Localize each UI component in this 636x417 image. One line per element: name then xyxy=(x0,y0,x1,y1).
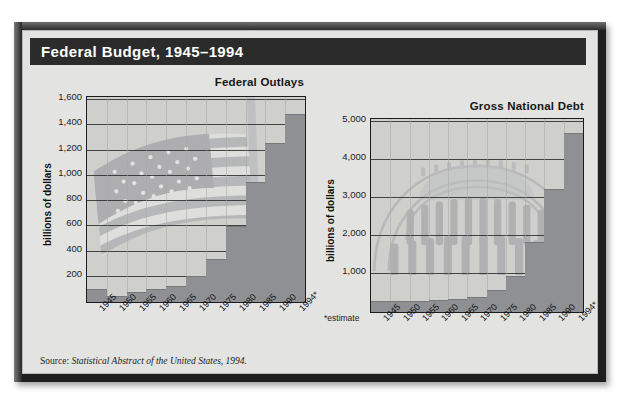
bar-slot xyxy=(487,119,506,312)
y-tick-label: 400 xyxy=(40,242,82,253)
figure-title-bar: Federal Budget, 1945–1994 xyxy=(30,38,586,65)
bar-slot xyxy=(371,119,390,312)
plot-area-left xyxy=(86,96,306,303)
y-tick-label: 1,000 xyxy=(40,166,82,177)
bar-slot xyxy=(390,119,409,312)
bar-slot xyxy=(87,97,107,302)
bar-slot xyxy=(544,119,563,312)
bar-series-right xyxy=(371,119,583,312)
figure-frame: Federal Budget, 1945–1994 Federal Outlay… xyxy=(14,22,606,382)
bar-slot xyxy=(467,119,486,312)
bar xyxy=(285,114,305,302)
frame-bevel-top xyxy=(14,22,606,30)
bar-slot xyxy=(506,119,525,312)
y-tick-label: 5,000 xyxy=(324,113,366,124)
y-axis-tick-labels-left: 2004006008001,0001,2001,4001,600 xyxy=(40,76,82,351)
y-tick-label: 600 xyxy=(40,217,82,228)
y-tick-label: 2,000 xyxy=(324,227,366,238)
bar-slot xyxy=(206,97,226,302)
bar-slot xyxy=(246,97,266,302)
bar-slot xyxy=(265,97,285,302)
y-tick-label: 3,000 xyxy=(324,189,366,200)
bar xyxy=(525,242,544,312)
y-tick-label: 1,400 xyxy=(40,116,82,127)
bar xyxy=(226,226,246,302)
bar-slot xyxy=(107,97,127,302)
bar-slot xyxy=(146,97,166,302)
page-title: Federal Budget, 1945–1994 xyxy=(30,43,244,60)
bar-slot xyxy=(166,97,186,302)
source-prefix: Source: xyxy=(40,356,71,366)
chart-title-right: Gross National Debt xyxy=(470,100,584,112)
bar xyxy=(265,143,285,302)
chart-gross-national-debt: Gross National Debt billions of dollars … xyxy=(324,100,586,351)
bar-slot xyxy=(525,119,544,312)
bar xyxy=(564,133,583,312)
source-citation: Statistical Abstract of the United State… xyxy=(71,356,247,366)
y-tick-label: 1,600 xyxy=(40,91,82,102)
source-line: Source: Statistical Abstract of the Unit… xyxy=(40,356,247,366)
bar-slot xyxy=(285,97,305,302)
bar xyxy=(246,182,266,302)
y-tick-label: 800 xyxy=(40,192,82,203)
y-tick-label: 1,200 xyxy=(40,141,82,152)
estimate-footnote: *estimate xyxy=(324,313,359,323)
y-tick-label: 200 xyxy=(40,267,82,278)
bar-series-left xyxy=(87,97,305,302)
bar-slot xyxy=(186,97,206,302)
chart-federal-outlays: Federal Outlays billions of dollars 2004… xyxy=(40,76,308,351)
bar-slot xyxy=(564,119,583,312)
plot-area-right xyxy=(370,118,584,313)
bar-slot xyxy=(410,119,429,312)
frame-bevel-left xyxy=(14,22,22,382)
bar-slot xyxy=(226,97,246,302)
bar-slot xyxy=(448,119,467,312)
y-tick-label: 4,000 xyxy=(324,151,366,162)
bar-slot xyxy=(127,97,147,302)
y-tick-label: 1,000 xyxy=(324,265,366,276)
bar-slot xyxy=(429,119,448,312)
bar xyxy=(544,189,563,312)
chart-title-left: Federal Outlays xyxy=(215,76,304,88)
